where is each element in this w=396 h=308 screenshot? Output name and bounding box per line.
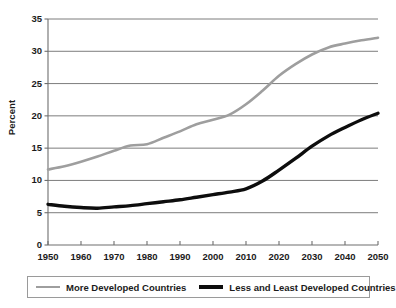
- black-line-swatch-icon: [199, 285, 223, 289]
- y-axis-label: Percent: [6, 86, 17, 150]
- series-line-0: [48, 38, 378, 170]
- legend-item-more-developed: More Developed Countries: [36, 277, 186, 297]
- x-tickmarks-group: [48, 241, 378, 245]
- y-tick-label: 35: [20, 13, 42, 24]
- y-tick-label: 30: [20, 45, 42, 56]
- y-tick-label: 5: [20, 207, 42, 218]
- chart-legend: More Developed Countries Less and Least …: [27, 276, 370, 298]
- y-tick-label: 25: [20, 78, 42, 89]
- chart-figure: Percent 05101520253035 19501960197019801…: [0, 0, 396, 308]
- y-tick-label: 10: [20, 174, 42, 185]
- data-series-group: [48, 38, 378, 208]
- legend-item-less-least-developed: Less and Least Developed Countries: [199, 277, 395, 297]
- y-tick-label: 0: [20, 239, 42, 250]
- series-line-1: [48, 113, 378, 208]
- y-tick-label: 15: [20, 142, 42, 153]
- axis-lines-group: [48, 19, 378, 245]
- y-tick-label: 20: [20, 110, 42, 121]
- gray-line-swatch-icon: [36, 286, 60, 288]
- plot-area-container: Percent 05101520253035 19501960197019801…: [0, 0, 396, 308]
- legend-label-less-least-developed: Less and Least Developed Countries: [229, 282, 395, 293]
- legend-label-more-developed: More Developed Countries: [66, 282, 186, 293]
- x-tick-label: 2050: [358, 251, 396, 262]
